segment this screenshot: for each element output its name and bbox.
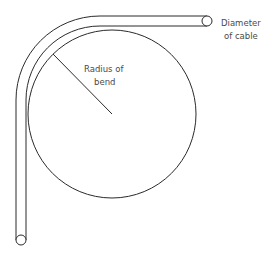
cable-end-bottom: [16, 235, 26, 245]
cable-end-top: [202, 16, 212, 26]
diameter-label-line1: Diameter: [221, 18, 261, 28]
cable-bend-diagram: Radius of bend Diameter of cable: [0, 0, 279, 256]
cable-inner-edge: [26, 26, 207, 240]
radius-label-line2: bend: [94, 77, 115, 87]
cable-outer-edge: [16, 16, 207, 240]
radius-label-line1: Radius of: [84, 64, 124, 74]
diameter-label-line2: of cable: [224, 31, 258, 41]
